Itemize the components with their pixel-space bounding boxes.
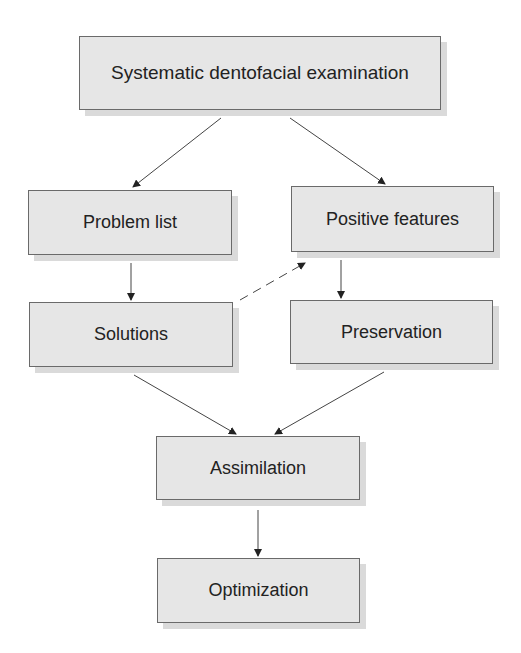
arrow-exam-to-problems bbox=[133, 118, 221, 187]
node-label: Preservation bbox=[341, 322, 442, 343]
node-systematic-examination: Systematic dentofacial examination bbox=[79, 36, 441, 110]
node-label: Systematic dentofacial examination bbox=[111, 62, 409, 84]
node-problem-list: Problem list bbox=[28, 190, 232, 255]
node-label: Positive features bbox=[326, 209, 459, 230]
node-assimilation: Assimilation bbox=[156, 436, 360, 500]
node-optimization: Optimization bbox=[157, 558, 360, 623]
node-label: Solutions bbox=[94, 324, 168, 345]
arrow-solutions-to-assimilation bbox=[134, 375, 236, 434]
node-label: Optimization bbox=[208, 580, 308, 601]
node-label: Problem list bbox=[83, 212, 177, 233]
arrow-preservation-to-assimilation bbox=[275, 372, 384, 434]
node-label: Assimilation bbox=[210, 458, 306, 479]
arrow-exam-to-positives bbox=[290, 118, 385, 184]
node-solutions: Solutions bbox=[29, 302, 233, 367]
node-positive-features: Positive features bbox=[291, 186, 494, 252]
node-preservation: Preservation bbox=[290, 300, 493, 364]
arrow-solutions-to-positives-dashed bbox=[240, 263, 305, 300]
